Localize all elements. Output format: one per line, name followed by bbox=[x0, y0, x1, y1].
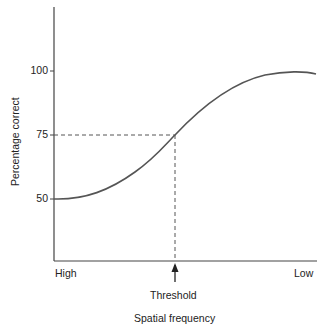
x-label-low: Low bbox=[294, 267, 313, 279]
y-tick-label-50: 50 bbox=[18, 192, 48, 204]
psychometric-curve bbox=[54, 72, 316, 199]
x-label-high: High bbox=[55, 267, 77, 279]
threshold-label: Threshold bbox=[150, 289, 197, 301]
x-axis-label: Spatial frequency bbox=[134, 312, 215, 324]
y-tick-label-100: 100 bbox=[18, 64, 48, 76]
threshold-arrow-icon bbox=[172, 263, 179, 272]
y-tick-label-75: 75 bbox=[18, 128, 48, 140]
y-axis-label: Percentage correct bbox=[9, 97, 21, 186]
chart-canvas bbox=[0, 0, 326, 333]
